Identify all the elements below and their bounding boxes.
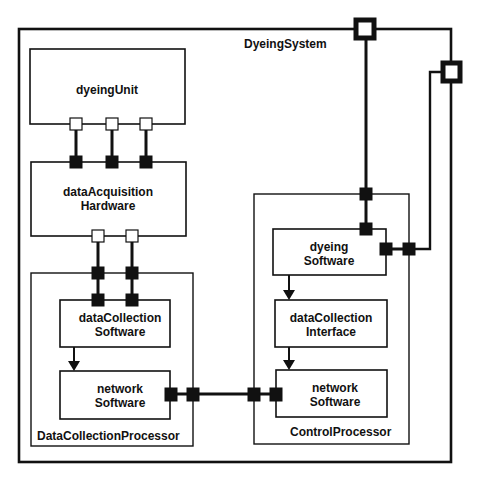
port-dyeing-unit-3[interactable] bbox=[140, 118, 152, 130]
dyeing-system-diagram: DyeingSystem DataCollectionProcessor Con… bbox=[0, 0, 479, 480]
arrow-dci-to-ns-right bbox=[283, 347, 295, 370]
external-port-2[interactable] bbox=[443, 63, 460, 81]
component-network-software-left[interactable]: network Software bbox=[60, 371, 170, 419]
component-dyeing-software[interactable]: dyeing Software bbox=[273, 229, 386, 275]
port-cp-left[interactable] bbox=[248, 388, 260, 401]
arrow-dcs-to-ns-left bbox=[68, 347, 80, 371]
port-dah-bottom-2[interactable] bbox=[126, 230, 138, 242]
data-acquisition-hardware-label-2: Hardware bbox=[81, 199, 136, 213]
port-dyeing-unit-2[interactable] bbox=[106, 118, 118, 130]
dyeing-software-label-1: dyeing bbox=[310, 240, 349, 254]
component-data-collection-interface[interactable]: dataCollection Interface bbox=[275, 300, 387, 347]
port-dah-top-2[interactable] bbox=[106, 156, 118, 168]
data-collection-processor-label: DataCollectionProcessor bbox=[37, 429, 180, 443]
port-dcp-right[interactable] bbox=[187, 388, 199, 401]
network-software-right-label-2: Software bbox=[310, 395, 361, 409]
data-collection-processor bbox=[31, 273, 193, 446]
ext-wire-2 bbox=[409, 72, 441, 249]
port-dyeing-unit-1[interactable] bbox=[70, 118, 82, 130]
dyeing-unit-label: dyeingUnit bbox=[76, 83, 138, 97]
data-collection-software-label-2: Software bbox=[95, 325, 146, 339]
data-collection-interface-label-2: Interface bbox=[306, 325, 356, 339]
dyeing-software-label-2: Software bbox=[304, 254, 355, 268]
data-collection-software-label-1: dataCollection bbox=[79, 311, 162, 325]
system-label: DyeingSystem bbox=[244, 37, 327, 51]
port-dcs-top-1[interactable] bbox=[92, 294, 104, 306]
port-ns-left[interactable] bbox=[165, 388, 177, 401]
port-dcp-top-2[interactable] bbox=[126, 267, 138, 279]
external-port-1[interactable] bbox=[356, 20, 374, 38]
data-collection-interface-label-1: dataCollection bbox=[290, 311, 373, 325]
data-acquisition-hardware-label-1: dataAcquisition bbox=[63, 185, 153, 199]
component-data-collection-software[interactable]: dataCollection Software bbox=[60, 300, 170, 347]
component-data-acquisition-hardware[interactable]: dataAcquisition Hardware bbox=[31, 162, 186, 236]
component-network-software-right[interactable]: network Software bbox=[276, 370, 387, 417]
port-dah-top-3[interactable] bbox=[140, 156, 152, 168]
control-processor-label: ControlProcessor bbox=[290, 425, 392, 439]
port-dah-bottom-1[interactable] bbox=[92, 230, 104, 242]
port-dah-top-1[interactable] bbox=[70, 156, 82, 168]
network-software-left-label-2: Software bbox=[95, 396, 146, 410]
network-software-left-label-1: network bbox=[97, 382, 143, 396]
arrow-ds-to-dci bbox=[283, 275, 295, 300]
network-software-right-label-1: network bbox=[312, 381, 358, 395]
port-cp-right[interactable] bbox=[403, 243, 415, 255]
port-dcs-top-2[interactable] bbox=[126, 294, 138, 306]
port-ds-top[interactable] bbox=[360, 223, 372, 235]
port-dcp-top-1[interactable] bbox=[92, 267, 104, 279]
port-cp-top[interactable] bbox=[360, 188, 372, 200]
port-ds-right[interactable] bbox=[380, 243, 392, 255]
port-ns-right[interactable] bbox=[270, 388, 282, 401]
component-dyeing-unit[interactable]: dyeingUnit bbox=[30, 49, 185, 124]
